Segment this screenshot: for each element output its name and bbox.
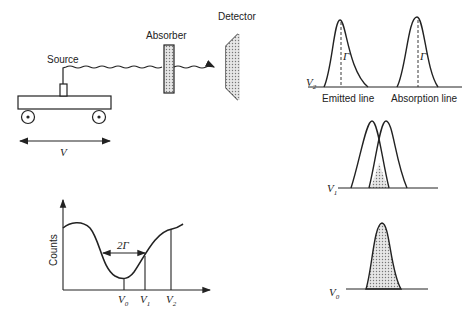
absorber-label: Absorber [146,30,187,41]
source-block [60,84,67,96]
v0-panel [346,223,428,289]
apparatus [18,34,240,141]
cart-platform [18,96,111,109]
v1-overlap-area [370,163,388,188]
v2-tick-label: V2 [166,293,177,308]
v2-panel [308,17,462,87]
v1-tick-label: V1 [140,293,150,308]
absorption-gamma-label: Γ [419,50,427,62]
absorber-block [164,45,174,93]
counts-plot [63,200,210,290]
mossbauer-diagram: Source Absorber Detector V Counts 2Γ V0 … [0,0,466,318]
absorption-line-label: Absorption line [391,93,458,104]
v0-overlap-peak [366,223,401,289]
emitted-gamma-label: Γ [342,50,350,62]
v1-panel [338,121,438,188]
gamma-ray-wave [63,66,162,84]
v1-panel-label: V1 [327,182,337,197]
emitted-line-label: Emitted line [322,93,375,104]
v0-panel-label: V0 [329,286,340,301]
width-label: 2Γ [117,239,130,251]
absorption-line-peak [397,17,438,87]
source-label: Source [47,54,79,65]
v2-panel-label: V2 [306,76,317,91]
velocity-label: V [60,146,68,158]
detector-label: Detector [218,11,256,22]
counts-label: Counts [48,234,59,266]
v0-tick-label: V0 [118,293,129,308]
